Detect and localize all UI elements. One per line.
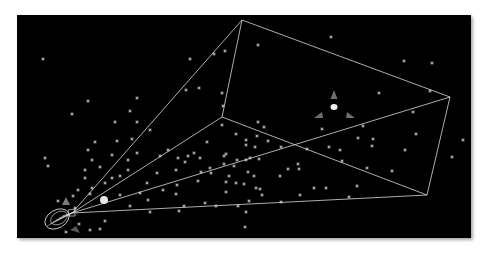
- star-particle-icon: [41, 57, 45, 61]
- star-particle-icon: [197, 86, 201, 90]
- star-particle-icon: [146, 198, 150, 202]
- star-particle-icon: [356, 136, 360, 140]
- star-particle-icon: [254, 186, 258, 190]
- star-particle-icon: [155, 171, 159, 175]
- star-particle-icon: [414, 132, 418, 136]
- star-particle-icon: [234, 181, 238, 185]
- star-particle-icon: [329, 35, 333, 39]
- star-particle-icon: [148, 210, 152, 214]
- star-particle-icon: [258, 187, 262, 191]
- star-particle-icon: [103, 219, 107, 223]
- star-particle-icon: [188, 57, 192, 61]
- star-particle-icon: [161, 188, 165, 192]
- gizmo-cone-right-icon[interactable]: [346, 112, 355, 118]
- star-particle-icon: [246, 170, 250, 174]
- star-particle-icon: [128, 109, 132, 113]
- star-particle-icon: [196, 179, 200, 183]
- star-particle-icon: [320, 127, 324, 131]
- star-particle-icon: [257, 157, 261, 161]
- star-particle-icon: [83, 176, 87, 180]
- star-particle-icon: [355, 184, 359, 188]
- star-particle-icon: [256, 43, 260, 47]
- star-particle-icon: [83, 168, 87, 172]
- star-particle-icon: [77, 222, 81, 226]
- star-particle-icon: [209, 171, 213, 175]
- star-particle-icon: [450, 155, 454, 159]
- star-particle-icon: [377, 91, 381, 95]
- star-particle-icon: [244, 143, 248, 147]
- star-particle-icon: [126, 168, 130, 172]
- star-particle-icon: [262, 125, 266, 129]
- star-particle-icon: [224, 180, 228, 184]
- star-particle-icon: [247, 199, 251, 203]
- star-particle-icon: [176, 156, 180, 160]
- star-particle-icon: [43, 156, 47, 160]
- star-particle-icon: [296, 162, 300, 166]
- star-particle-icon: [242, 182, 246, 186]
- star-particle-icon: [86, 148, 90, 152]
- star-particle-icon: [174, 192, 178, 196]
- star-particle-icon: [56, 199, 60, 203]
- star-particle-icon: [118, 174, 122, 178]
- star-particle-icon: [461, 138, 465, 142]
- star-particle-icon: [232, 164, 236, 168]
- star-particle-icon: [371, 137, 375, 141]
- gizmo-cone-left-icon[interactable]: [314, 112, 323, 118]
- gizmo-cone-up-icon[interactable]: [331, 90, 338, 99]
- star-particle-icon: [361, 124, 365, 128]
- star-particle-icon: [286, 167, 290, 171]
- star-particle-icon: [390, 169, 394, 173]
- star-particle-icon: [90, 158, 94, 162]
- star-particle-icon: [110, 153, 114, 157]
- star-particle-icon: [145, 181, 149, 185]
- camera-frustum-wireframe[interactable]: [72, 20, 450, 213]
- star-particle-icon: [192, 151, 196, 155]
- light-gizmo-icon[interactable]: [314, 90, 355, 118]
- star-particle-icon: [88, 228, 92, 232]
- star-particle-icon: [222, 162, 226, 166]
- star-particle-icon: [46, 164, 50, 168]
- star-particle-icon: [298, 193, 302, 197]
- star-particle-icon: [312, 186, 316, 190]
- star-particle-icon: [244, 210, 248, 214]
- star-particle-icon: [235, 158, 239, 162]
- gizmo-center-icon[interactable]: [331, 104, 338, 110]
- star-particle-icon: [227, 174, 231, 178]
- star-particle-icon: [411, 110, 415, 114]
- star-particle-icon: [256, 120, 260, 124]
- star-particle-icon: [70, 112, 74, 116]
- star-particle-icon: [224, 190, 228, 194]
- star-particle-icon: [255, 134, 259, 138]
- star-particle-icon: [252, 174, 256, 178]
- star-particle-icon: [128, 204, 132, 208]
- frustum-edge: [72, 20, 242, 213]
- star-particle-icon: [64, 230, 68, 234]
- star-particle-icon: [177, 209, 181, 213]
- star-particle-icon: [208, 166, 212, 170]
- 3d-viewport[interactable]: [17, 15, 471, 238]
- star-particle-icon: [184, 88, 188, 92]
- star-particle-icon: [110, 176, 114, 180]
- star-particle-icon: [148, 128, 152, 132]
- camera-model-icon[interactable]: [41, 197, 80, 233]
- star-particle-icon: [86, 99, 90, 103]
- star-particle-icon: [370, 144, 374, 148]
- star-particle-icon: [365, 166, 369, 170]
- star-particle-icon: [71, 194, 75, 198]
- star-particle-icon: [113, 120, 117, 124]
- star-particle-icon: [327, 145, 331, 149]
- star-particle-icon: [183, 160, 187, 164]
- star-particle-icon: [115, 139, 119, 143]
- star-particle-icon: [220, 123, 224, 127]
- star-particle-icon: [135, 96, 139, 100]
- scene-canvas[interactable]: [17, 15, 471, 238]
- star-particle-icon: [223, 49, 227, 53]
- sphere-object[interactable]: [100, 196, 108, 204]
- star-particle-icon: [278, 174, 282, 178]
- star-particle-icon: [266, 139, 270, 143]
- star-particle-icon: [135, 151, 139, 155]
- star-particle-icon: [203, 201, 207, 205]
- star-particle-icon: [347, 195, 351, 199]
- star-particle-icon: [198, 156, 202, 160]
- camera-up-marker-icon: [62, 197, 70, 205]
